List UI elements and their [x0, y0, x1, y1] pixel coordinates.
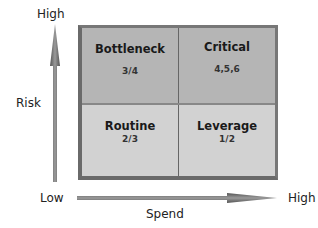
quadrant-value: 3/4: [82, 66, 178, 76]
quadrant-critical: Critical 4,5,6: [179, 28, 275, 103]
quadrant-routine: Routine 2/3: [82, 105, 178, 176]
horizontal-divider: [82, 103, 275, 105]
y-axis-title: Risk: [16, 96, 41, 110]
x-axis-low-label: Low: [40, 191, 64, 205]
quadrant-title: Critical: [179, 40, 275, 54]
vertical-divider: [178, 28, 179, 176]
quadrant-value: 2/3: [82, 134, 178, 144]
quadrant-title: Bottleneck: [82, 42, 178, 56]
quadrant-bottleneck: Bottleneck 3/4: [82, 28, 178, 103]
quadrant-value: 4,5,6: [179, 64, 275, 74]
x-axis-arrow-icon: [77, 191, 277, 205]
quadrant-value: 1/2: [179, 134, 275, 144]
y-axis-high-label: High: [37, 7, 65, 21]
quadrant-leverage: Leverage 1/2: [179, 105, 275, 176]
risk-spend-matrix: Bottleneck 3/4 Critical 4,5,6 Routine 2/…: [78, 25, 278, 180]
x-axis-high-label: High: [288, 191, 316, 205]
y-axis-arrow-icon: [48, 24, 62, 182]
quadrant-title: Leverage: [179, 119, 275, 133]
x-axis-title: Spend: [146, 207, 184, 221]
quadrant-title: Routine: [82, 119, 178, 133]
